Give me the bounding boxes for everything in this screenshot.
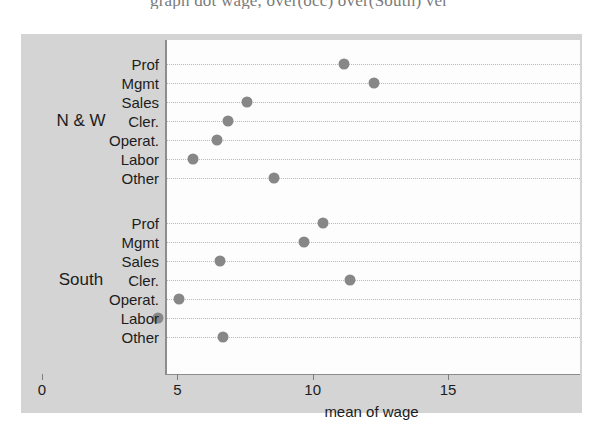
x-tick-label: 10 bbox=[304, 381, 321, 398]
category-label: Other bbox=[39, 170, 159, 187]
data-point bbox=[317, 218, 328, 229]
group-label: N & W bbox=[21, 111, 141, 131]
gridline bbox=[167, 337, 580, 338]
category-label: Operat. bbox=[39, 291, 159, 308]
clipped-caption-text: graph dot wage, over(occ) over(South) ve… bbox=[0, 0, 598, 9]
gridline bbox=[167, 318, 580, 319]
data-point bbox=[223, 116, 234, 127]
data-point bbox=[369, 78, 380, 89]
category-label: Other bbox=[39, 329, 159, 346]
x-tick-label: 15 bbox=[440, 381, 457, 398]
x-tick bbox=[448, 374, 449, 380]
category-label: Prof bbox=[39, 215, 159, 232]
x-tick bbox=[42, 374, 43, 380]
gridline bbox=[167, 159, 580, 160]
gridline bbox=[167, 64, 580, 65]
gridline bbox=[167, 102, 580, 103]
x-tick-label: 0 bbox=[38, 381, 46, 398]
group-label: South bbox=[21, 270, 141, 290]
category-label: Mgmt bbox=[39, 234, 159, 251]
category-label: Mgmt bbox=[39, 75, 159, 92]
chart-figure-panel: 051015mean of wage ProfMgmtSalesCler.Ope… bbox=[21, 34, 582, 413]
data-point bbox=[269, 173, 280, 184]
data-point bbox=[174, 294, 185, 305]
gridline bbox=[167, 223, 580, 224]
data-point bbox=[344, 275, 355, 286]
data-point bbox=[339, 59, 350, 70]
data-point bbox=[187, 154, 198, 165]
category-label: Labor bbox=[39, 151, 159, 168]
x-axis-labels: 051015mean of wage bbox=[21, 374, 582, 432]
gridline bbox=[167, 280, 580, 281]
gridline bbox=[167, 178, 580, 179]
data-point bbox=[242, 97, 253, 108]
category-label: Sales bbox=[39, 253, 159, 270]
data-point bbox=[212, 135, 223, 146]
plot-area bbox=[165, 40, 580, 374]
category-label: Sales bbox=[39, 94, 159, 111]
gridline bbox=[167, 140, 580, 141]
category-label: Prof bbox=[39, 56, 159, 73]
gridline bbox=[167, 261, 580, 262]
data-point bbox=[214, 256, 225, 267]
x-tick bbox=[313, 374, 314, 380]
data-point bbox=[298, 237, 309, 248]
category-label: Operat. bbox=[39, 132, 159, 149]
x-tick bbox=[177, 374, 178, 380]
data-point bbox=[217, 332, 228, 343]
x-axis-title: mean of wage bbox=[165, 403, 578, 420]
category-label: Labor bbox=[39, 310, 159, 327]
x-tick-label: 5 bbox=[173, 381, 181, 398]
gridline bbox=[167, 242, 580, 243]
gridline bbox=[167, 299, 580, 300]
